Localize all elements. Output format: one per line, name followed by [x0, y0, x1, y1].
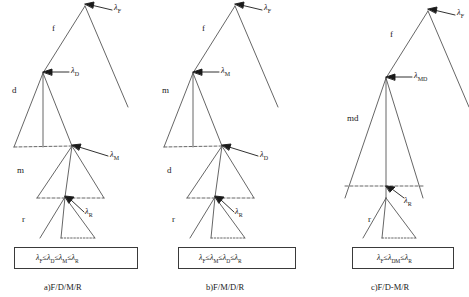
panel-b-level-label-m: m — [162, 86, 169, 95]
panel-b-arrow-ld-head — [222, 144, 231, 150]
panel-a-rate-subscript-d: D — [75, 71, 79, 77]
panel-c-rate-subscript-md: MD — [418, 76, 428, 82]
panel-c-level-label-md: md — [347, 114, 359, 123]
panel-a-formula: λF≤λD≤λM≤λR — [36, 253, 79, 264]
panel-b-rate-label-lambda-f: λF — [264, 3, 271, 14]
figure-root: f d m r λF λD λM λR λF≤λD≤λM≤λR a)F/D/M/… — [0, 0, 469, 297]
panel-b-rate-subscript-f: F — [268, 8, 271, 14]
panel-b-level-label-f: f — [202, 24, 205, 33]
panel-a-level-label-f: f — [52, 24, 55, 33]
panel-b-rate-label-lambda-m: λM — [221, 66, 230, 77]
panel-c-arrow-lr-head — [386, 186, 395, 192]
panel-b-arrow-lf-head — [235, 2, 244, 8]
panel-b-level-label-d: d — [167, 166, 172, 175]
panel-a-d-left-leg — [14, 73, 43, 147]
panel-a-rate-label-lambda-d: λD — [71, 66, 79, 77]
panel-a-m-right-leg — [72, 146, 104, 198]
panel-a-rate-label-lambda-f: λF — [114, 3, 121, 14]
panel-a-tree — [14, 6, 128, 238]
panel-a-arrow-lf-line — [91, 5, 112, 10]
panel-a-rate-subscript-f: F — [118, 8, 121, 14]
panel-b-rate-subscript-m: M — [225, 71, 230, 77]
panel-a-dashed-levels — [14, 146, 104, 198]
panel-c-level-label-r: r — [368, 215, 371, 224]
panel-b-dashed-levels — [164, 146, 254, 198]
panel-a-level-label-d: d — [12, 86, 17, 95]
panel-a-arrows — [43, 2, 112, 212]
panel-c-arrow-lr-line — [392, 189, 404, 198]
panel-b-rate-subscript-r: R — [239, 212, 243, 218]
panel-c-arrows — [386, 7, 455, 198]
panel-a-level-label-m: m — [17, 166, 24, 175]
panel-b-rate-label-lambda-r: λR — [235, 207, 243, 218]
panel-a-formula-sub-4: R — [75, 258, 79, 264]
panel-b-level-label-r: r — [172, 215, 175, 224]
panel-c-md-right-leg — [386, 78, 423, 198]
panel-c-formula-sub-2: DM — [391, 258, 400, 264]
panel-c-arrow-lf-head — [428, 7, 437, 13]
panel-b-rate-label-lambda-d: λD — [260, 150, 268, 161]
panel-a-rate-subscript-m: M — [114, 155, 119, 161]
panel-a-rate-label-lambda-r: λR — [85, 207, 93, 218]
panel-a-level-label-r: r — [22, 215, 25, 224]
panel-c-rate-label-lambda-f: λF — [457, 8, 464, 19]
panel-a-arrow-lr-line — [71, 200, 84, 212]
panel-c-rate-subscript-f: F — [461, 13, 464, 19]
panel-a-rate-subscript-r: R — [89, 212, 93, 218]
panel-a-arrow-lm-line — [79, 147, 108, 156]
panel-b-arrow-lf-line — [241, 5, 262, 10]
panel-a-rate-label-lambda-m: λM — [110, 150, 119, 161]
panel-b-d-mid-leg — [215, 146, 222, 197]
panel-c-level-label-f: f — [390, 30, 393, 39]
panel-b-f-right-leg — [235, 6, 278, 107]
panel-b-f-left-leg — [193, 6, 235, 73]
panel-b-arrows — [193, 2, 262, 212]
panel-b-rate-subscript-d: D — [264, 155, 268, 161]
panel-a-arrow-ld-head — [43, 69, 52, 75]
panel-b-caption: b)F/M/D/R — [206, 282, 244, 292]
panel-c-caption: c)F/D-M/R — [371, 282, 409, 292]
panel-c-formula: λF≤λDM≤λR — [377, 253, 412, 264]
panel-b-m-right-leg — [193, 73, 222, 146]
panel-a-arrow-lf-head — [85, 2, 94, 8]
panel-a-f-left-leg — [43, 6, 85, 73]
panel-b-tree — [164, 6, 278, 238]
panel-c-arrow-lf-line — [434, 10, 455, 15]
panel-a-m-left-leg — [37, 146, 72, 198]
panel-c-formula-sub-3: R — [408, 258, 412, 264]
panel-b-arrow-lm-head — [193, 69, 202, 75]
panel-a-caption: a)F/D/M/R — [44, 282, 82, 292]
panel-c-arrow-lmd-head — [386, 74, 395, 80]
panel-c-rate-label-lambda-md: λMD — [414, 71, 427, 82]
panel-a-m-mid-leg — [65, 146, 72, 197]
panel-c-f-right-leg — [428, 11, 469, 107]
panel-b-arrow-ld-line — [229, 147, 258, 156]
panel-b-d-left-leg — [187, 146, 222, 198]
panel-b-formula: λF≤λM≤λD≤λR — [199, 253, 242, 264]
panel-a-d-right-leg — [43, 73, 72, 146]
panel-c-md-left-leg — [345, 78, 386, 198]
panel-a-f-right-leg — [85, 6, 128, 107]
panel-c-rate-subscript-r: R — [408, 201, 412, 207]
panel-a-arrow-lm-head — [72, 144, 81, 150]
panel-b-d-right-leg — [222, 146, 254, 198]
panel-b-arrow-lr-line — [221, 200, 234, 212]
panel-b-formula-sub-4: R — [238, 258, 242, 264]
panel-c-f-left-leg — [386, 11, 428, 78]
panel-c-rate-label-lambda-r: λR — [404, 196, 412, 207]
